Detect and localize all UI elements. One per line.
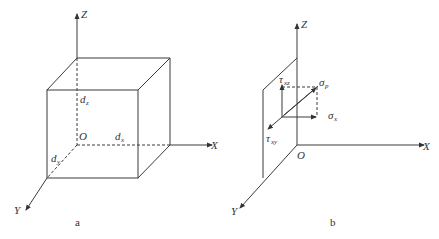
dx-label: d x xyxy=(115,130,125,144)
svg-text:p: p xyxy=(324,82,329,90)
stress-diagram: Z X Y O d z d x d y a xyxy=(0,0,439,239)
z-label-b: Z xyxy=(301,18,308,30)
y-axis-b xyxy=(240,145,297,208)
sigma-x-label: σ x xyxy=(328,109,338,123)
tau-xz-label: τ xz xyxy=(279,73,290,87)
svg-text:x: x xyxy=(120,136,125,144)
x-label-a: X xyxy=(210,139,219,151)
z-label-a: Z xyxy=(81,8,88,20)
panel-b: Z X Y O τ xz σ p σ x τ xy b xyxy=(231,18,431,228)
svg-text:xy: xy xyxy=(270,138,278,146)
y-label-a: Y xyxy=(14,204,22,216)
tau-xy-label: τ xy xyxy=(266,132,278,146)
svg-text:y: y xyxy=(56,158,61,166)
origin-label-b: O xyxy=(297,149,305,161)
panel-a: Z X Y O d z d x d y a xyxy=(14,8,219,228)
sigma-p-label: σ p xyxy=(319,76,329,90)
dz-label: d z xyxy=(80,93,89,107)
y-label-b: Y xyxy=(231,205,239,217)
sigma-p-shadow xyxy=(284,86,318,115)
tau-xy-arrow xyxy=(268,117,282,129)
caption-b: b xyxy=(330,216,336,228)
caption-a: a xyxy=(75,216,80,228)
dy-label: d y xyxy=(51,152,61,166)
x-label-b: X xyxy=(422,140,431,152)
y-axis-a xyxy=(26,178,47,210)
origin-label-a: O xyxy=(79,130,87,142)
svg-text:z: z xyxy=(85,99,89,107)
svg-text:xz: xz xyxy=(283,79,290,87)
svg-text:x: x xyxy=(333,115,338,123)
cube xyxy=(47,58,170,178)
